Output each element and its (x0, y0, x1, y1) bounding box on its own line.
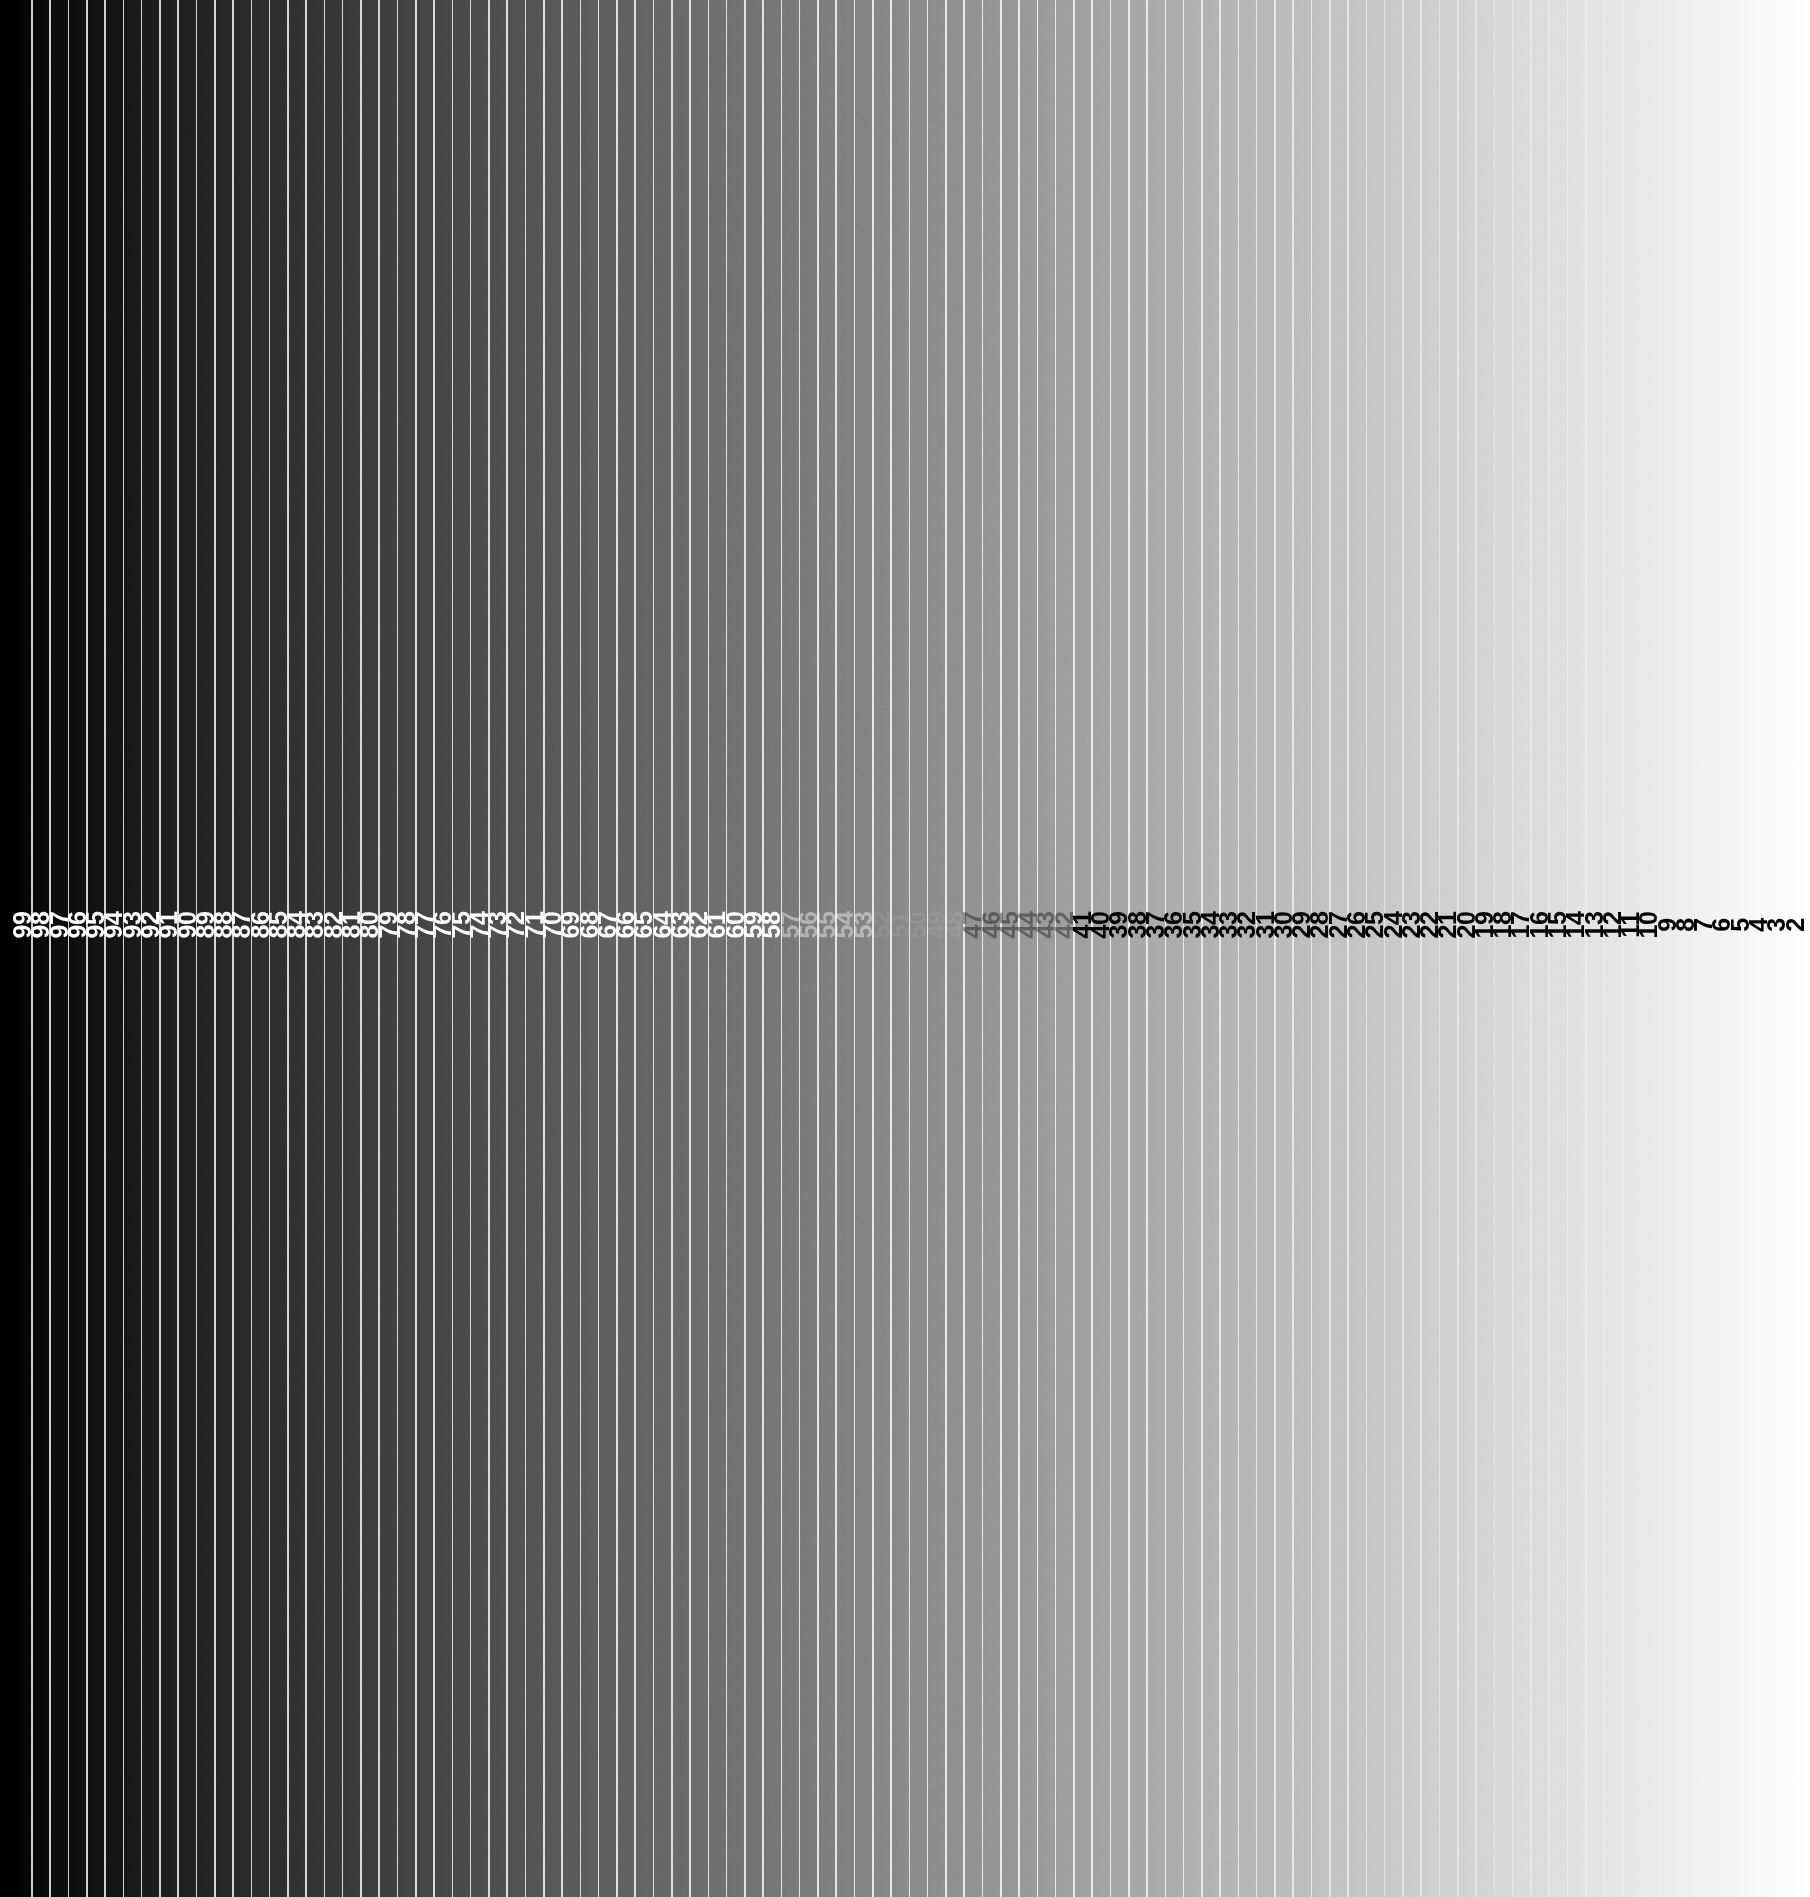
grayscale-wedge-canvas: 9998979695949392919089888786858483828180… (0, 0, 1810, 1897)
step-label-2[interactable]: 2 (1783, 918, 1808, 932)
grayscale-gradient-ramp (0, 0, 1810, 1897)
left-black-gutter (0, 0, 20, 1897)
